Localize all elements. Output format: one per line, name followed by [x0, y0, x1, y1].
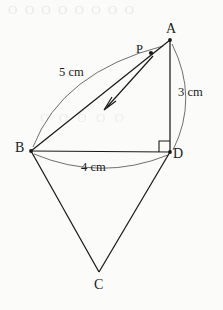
- point-label-p: P: [136, 43, 143, 56]
- measure-label-bd: 4 cm: [81, 161, 106, 174]
- vertex-dot-D: [168, 150, 172, 154]
- vertex-label-d: D: [173, 147, 183, 161]
- measure-label-ab: 5 cm: [59, 66, 84, 79]
- segment-DC: [99, 152, 170, 272]
- figure-canvas: [0, 0, 223, 310]
- measure-label-ad: 3 cm: [178, 86, 203, 99]
- geometry-figure: O O O O O O O O O O O O O A B C D P 5 cm…: [0, 0, 223, 310]
- vertex-label-b: B: [15, 141, 24, 155]
- segment-AB: [31, 40, 170, 151]
- vertex-label-a: A: [166, 22, 176, 36]
- vertex-dot-B: [29, 149, 33, 153]
- point-dot-P: [149, 51, 153, 55]
- vertex-dot-A: [168, 38, 172, 42]
- segment-BD: [31, 151, 170, 152]
- vertex-label-c: C: [94, 278, 103, 292]
- right-angle-marker-D: [159, 141, 170, 152]
